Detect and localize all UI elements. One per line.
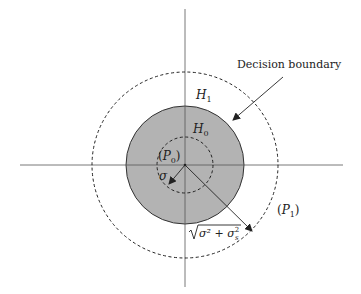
decision-region-diagram: Decision boundary H1 H0 (P0) σ (P1) σ² +… [0, 0, 361, 294]
svg-text:σ² + σ2s: σ² + σ2s [199, 226, 239, 242]
p1-label: (P1) [277, 203, 300, 219]
sigma-label: σ [159, 169, 168, 183]
decision-boundary-arrow [233, 77, 283, 120]
p0-label: (P0) [158, 149, 181, 165]
h1-label: H1 [195, 88, 212, 104]
sqrt-sigma-label: σ² + σ2s [189, 225, 241, 242]
decision-boundary-label: Decision boundary [237, 58, 342, 71]
